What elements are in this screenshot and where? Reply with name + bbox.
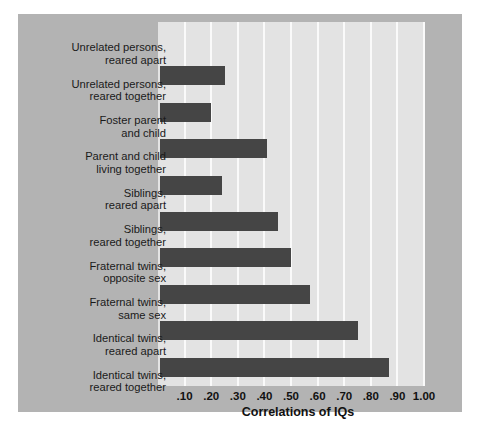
plot-area (158, 22, 424, 386)
bar-row (158, 58, 424, 92)
chart-figure: Unrelated persons,reared apartUnrelated … (0, 0, 480, 425)
category-label-line: reared apart (36, 54, 166, 67)
category-label: Identical twins,reared together (36, 369, 166, 394)
x-axis-title: Correlations of IQs (158, 405, 438, 419)
category-label: Fraternal twins,same sex (36, 296, 166, 321)
category-label-line: and child (36, 127, 166, 140)
bar-row (158, 204, 424, 238)
category-label-line: Siblings, (36, 223, 166, 236)
category-label: Parent and childliving together (36, 150, 166, 175)
category-label-line: reared together (36, 381, 166, 394)
category-label: Unrelated persons,reared apart (36, 41, 166, 66)
bar-row (158, 95, 424, 129)
category-axis-labels: Unrelated persons,reared apartUnrelated … (36, 36, 172, 400)
category-label: Siblings,reared together (36, 223, 166, 248)
category-label-line: reared together (36, 236, 166, 249)
category-label-line: Fraternal twins, (36, 260, 166, 273)
category-label-line: reared together (36, 90, 166, 103)
chart-panel: Unrelated persons,reared apartUnrelated … (18, 14, 462, 412)
category-label-line: Unrelated persons, (36, 78, 166, 91)
category-label-line: living together (36, 163, 166, 176)
bar-row (158, 313, 424, 347)
category-label-line: opposite sex (36, 272, 166, 285)
x-tick-label: 1.00 (407, 390, 441, 402)
bar (160, 212, 278, 231)
category-label-line: Foster parent (36, 114, 166, 127)
category-label-line: same sex (36, 309, 166, 322)
category-label-line: reared apart (36, 199, 166, 212)
category-label-line: Siblings, (36, 187, 166, 200)
x-axis-tick-labels: .10.20.30.40.50.60.70.80.901.00 (158, 390, 448, 406)
bar (160, 285, 310, 304)
category-label-line: Identical twins, (36, 332, 166, 345)
bar-series (158, 22, 424, 386)
category-label: Unrelated persons,reared together (36, 78, 166, 103)
bar (160, 358, 389, 377)
category-label: Identical twins,reared apart (36, 332, 166, 357)
bar (160, 139, 267, 158)
category-label: Siblings,reared apart (36, 187, 166, 212)
bar-row (158, 131, 424, 165)
category-label: Foster parentand child (36, 114, 166, 139)
category-label-line: Fraternal twins, (36, 296, 166, 309)
bar (160, 248, 291, 267)
bar-row (158, 168, 424, 202)
category-label-line: reared apart (36, 345, 166, 358)
bar (160, 321, 358, 340)
category-label-line: Unrelated persons, (36, 41, 166, 54)
bar-row (158, 350, 424, 384)
bar-row (158, 277, 424, 311)
category-label-line: Identical twins, (36, 369, 166, 382)
bar-row (158, 240, 424, 274)
category-label: Fraternal twins,opposite sex (36, 260, 166, 285)
category-label-line: Parent and child (36, 150, 166, 163)
bar-row (158, 22, 424, 56)
